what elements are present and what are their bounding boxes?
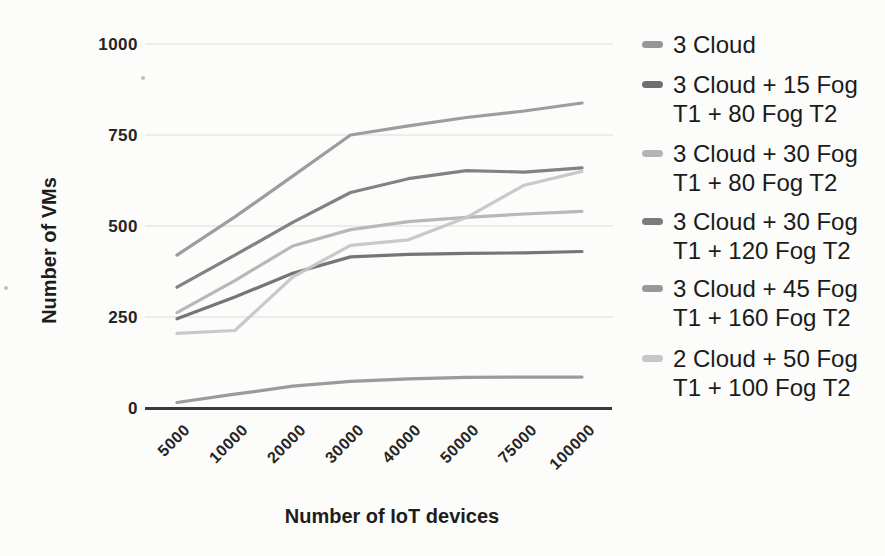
scan-speck <box>141 76 145 80</box>
y-tick-label: 1000 <box>78 35 138 55</box>
legend-swatch-icon <box>642 150 663 157</box>
legend-swatch-icon <box>642 81 663 88</box>
y-tick-label: 500 <box>78 217 138 237</box>
legend-label: 3 Cloud + 15 Fog T1 + 80 Fog T2 <box>673 70 858 128</box>
legend-label: 3 Cloud + 45 Fog T1 + 160 Fog T2 <box>673 274 858 332</box>
legend-label: 3 Cloud <box>673 30 756 59</box>
y-tick-label: 0 <box>78 399 138 419</box>
scanned-line-chart-page: 02505007501000 5000100002000030000400005… <box>0 0 885 556</box>
legend-label: 2 Cloud + 50 Fog T1 + 100 Fog T2 <box>673 344 858 402</box>
y-axis-title: Number of VMs <box>38 146 61 356</box>
legend-label: 3 Cloud + 30 Fog T1 + 80 Fog T2 <box>673 139 858 197</box>
legend-item: 3 Cloud <box>642 30 756 59</box>
legend-swatch-icon <box>642 218 663 225</box>
y-tick-label: 250 <box>78 308 138 328</box>
y-tick-label: 750 <box>78 126 138 146</box>
legend-swatch-icon <box>642 355 663 362</box>
legend-item: 3 Cloud + 15 Fog T1 + 80 Fog T2 <box>642 70 858 128</box>
scan-speck <box>4 286 8 290</box>
series-line <box>177 377 582 402</box>
x-axis-title: Number of IoT devices <box>262 505 522 528</box>
legend-swatch-icon <box>642 41 663 48</box>
legend-item: 3 Cloud + 45 Fog T1 + 160 Fog T2 <box>642 274 858 332</box>
legend-item: 3 Cloud + 30 Fog T1 + 80 Fog T2 <box>642 139 858 197</box>
legend-item: 2 Cloud + 50 Fog T1 + 100 Fog T2 <box>642 344 858 402</box>
series-line <box>177 103 582 255</box>
legend-swatch-icon <box>642 285 663 292</box>
series-line <box>177 252 582 319</box>
legend-label: 3 Cloud + 30 Fog T1 + 120 Fog T2 <box>673 207 858 265</box>
legend-item: 3 Cloud + 30 Fog T1 + 120 Fog T2 <box>642 207 858 265</box>
